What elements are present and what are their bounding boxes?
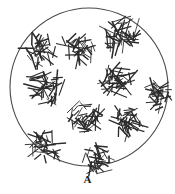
figure-drawing-canvas [0,0,175,194]
panel-label-a: A [0,174,175,185]
cluster-segment [116,86,124,87]
cluster-segment [126,36,137,37]
figure-panel-a: A [0,0,175,194]
